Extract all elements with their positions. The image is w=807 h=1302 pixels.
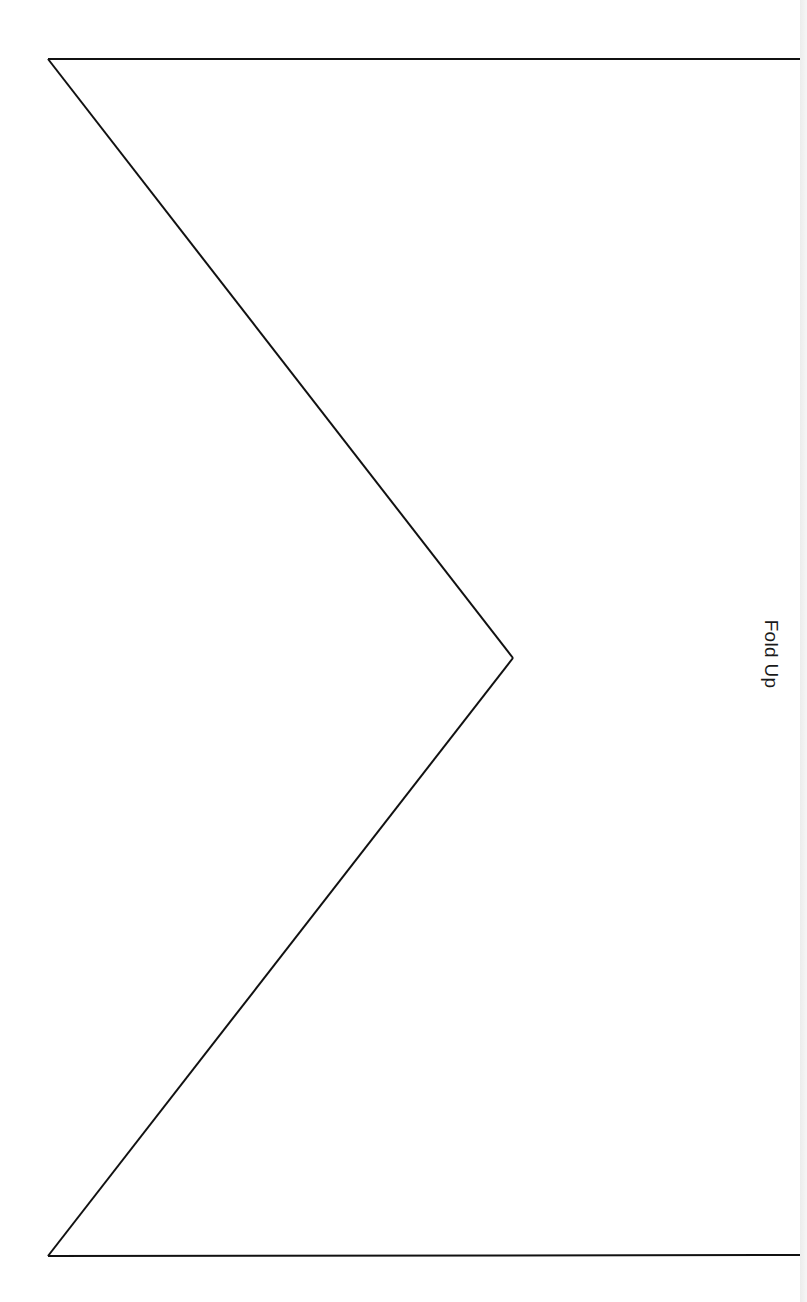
fold-template-outline <box>0 0 807 1302</box>
bottom-cut-line <box>48 1255 800 1256</box>
lower-diagonal-line <box>48 658 513 1256</box>
fold-up-label: Fold Up <box>760 620 782 689</box>
upper-diagonal-line <box>48 59 513 658</box>
